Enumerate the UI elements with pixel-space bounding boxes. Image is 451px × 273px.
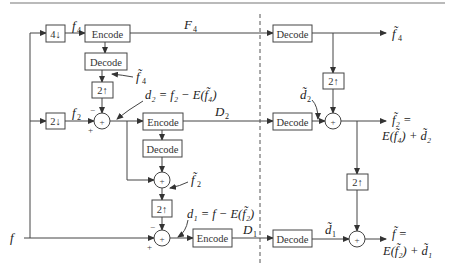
- output-f-tilde-line1: f̃ =: [392, 226, 407, 241]
- svg-text:+: +: [88, 125, 93, 135]
- label-d2-tilde: d̃ 2: [300, 87, 311, 104]
- svg-text:F: F: [183, 17, 193, 32]
- sum-node-3: +: [154, 230, 170, 246]
- svg-text:+: +: [159, 176, 164, 186]
- sum-node-1: +: [94, 113, 110, 129]
- svg-text:+: +: [147, 242, 152, 252]
- svg-text:D: D: [214, 104, 225, 119]
- equation-d1: d₁ = f − E(f̃₂): [187, 206, 254, 221]
- downsample-2-block: 2↓: [46, 113, 65, 129]
- svg-text:4: 4: [193, 25, 197, 34]
- svg-text:Encode: Encode: [92, 29, 124, 40]
- svg-text:1: 1: [332, 230, 336, 239]
- upsample-2-block-b: 2↑: [152, 200, 172, 217]
- svg-text:Decode: Decode: [90, 57, 122, 68]
- svg-text:4: 4: [142, 77, 146, 86]
- svg-text:2↑: 2↑: [352, 177, 363, 188]
- svg-text:+: +: [159, 234, 164, 244]
- svg-text:2↑: 2↑: [328, 76, 339, 87]
- svg-text:4: 4: [398, 34, 402, 43]
- svg-text:+: +: [330, 117, 335, 127]
- upsample-2-block-c: 2↑: [323, 73, 344, 89]
- svg-text:−: −: [150, 222, 155, 232]
- label-D2: D 2: [214, 104, 229, 121]
- svg-text:4: 4: [77, 26, 81, 35]
- svg-text:+: +: [354, 235, 359, 245]
- decode-block-2: Decode: [143, 140, 182, 157]
- label-f2: f 2: [72, 105, 81, 122]
- upsample-2-block-a: 2↑: [92, 82, 113, 98]
- sum-node-r2: +: [349, 231, 365, 247]
- label-d1-tilde: d̃ 1: [325, 222, 336, 239]
- upsample-2-block-d: 2↑: [347, 174, 368, 190]
- svg-text:+: +: [99, 117, 104, 127]
- svg-text:Decode: Decode: [276, 29, 308, 40]
- output-f2-tilde-line1: f̃₂ =: [392, 112, 411, 127]
- encode-block-1: Encode: [85, 25, 130, 42]
- equation-d2: d₂ = f₂ − E(f̃₄): [145, 87, 217, 102]
- sum-node-r1: +: [325, 113, 341, 129]
- decode-block-r2: Decode: [273, 113, 312, 130]
- svg-text:Decode: Decode: [276, 117, 308, 128]
- svg-text:2: 2: [77, 113, 81, 122]
- svg-text:Decode: Decode: [276, 234, 308, 245]
- output-f2-tilde-line2: E(f̃₄) + d̃₂: [381, 128, 432, 143]
- downsample-4-block: 4↓: [46, 25, 65, 42]
- svg-text:2↑: 2↑: [157, 204, 168, 215]
- sum-node-2: +: [154, 172, 170, 188]
- svg-text:Encode: Encode: [197, 233, 229, 244]
- svg-text:1: 1: [253, 230, 257, 239]
- label-f4-tilde: f̃ 4: [136, 69, 146, 86]
- pyramid-coding-diagram: 4↓ Encode Decode 2↑ 2↓ + − + Encode: [0, 0, 451, 273]
- label-f2-tilde: f̃ 2: [191, 172, 201, 189]
- decode-block-r3: Decode: [273, 230, 312, 247]
- svg-text:2: 2: [225, 112, 229, 121]
- svg-text:Encode: Encode: [147, 117, 179, 128]
- svg-text:2: 2: [197, 180, 201, 189]
- label-input-f: f: [10, 230, 16, 245]
- svg-text:2↓: 2↓: [50, 116, 61, 127]
- encode-block-2: Encode: [143, 113, 183, 130]
- decode-block-1: Decode: [85, 53, 127, 70]
- svg-text:Decode: Decode: [146, 144, 178, 155]
- output-f4-tilde: f̃ 4: [392, 26, 402, 43]
- label-F4: F 4: [183, 17, 197, 34]
- svg-text:2: 2: [307, 95, 311, 104]
- output-f-tilde-line2: E(f̃₂) + d̃₁: [382, 243, 432, 258]
- decode-block-r1: Decode: [273, 25, 312, 42]
- label-D1: D 1: [242, 222, 257, 239]
- svg-text:D: D: [242, 222, 253, 237]
- svg-text:2↑: 2↑: [97, 85, 108, 96]
- svg-text:4↓: 4↓: [50, 29, 61, 40]
- svg-text:−: −: [90, 105, 95, 115]
- label-f4: f 4: [72, 18, 81, 35]
- encode-block-3: Encode: [193, 229, 232, 247]
